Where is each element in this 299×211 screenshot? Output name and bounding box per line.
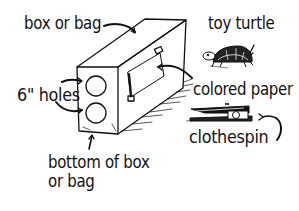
toy-turtle-illustration (203, 46, 253, 68)
label-box-or-bag: box or bag (24, 14, 101, 32)
label-clothespin: clothespin (189, 128, 268, 146)
label-bottom-line2: or bag (48, 172, 95, 190)
label-toy-turtle: toy turtle (208, 14, 275, 32)
label-bottom-line1: bottom of box (48, 153, 149, 171)
diagram-canvas: box or bag toy turtle 6" holes colored p… (0, 0, 299, 211)
clothespin-illustration (186, 104, 252, 121)
label-colored-paper: colored paper (193, 80, 293, 98)
label-six-inch-holes: 6" holes (17, 86, 80, 104)
box-illustration (77, 19, 193, 149)
